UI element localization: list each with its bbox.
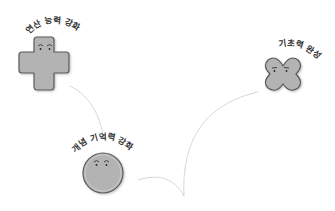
label-concept: 개념 기억력 강화 [70,131,135,154]
node-concept-circle [83,153,123,193]
label-basic: 기초력 완성 [278,38,323,61]
connector-concept-to-basic [138,92,258,196]
node-calc-cross [19,37,69,90]
node-basic-clover [265,58,300,90]
diagram-canvas: 연산 능력 강화 개념 기억력 강화 기초력 완성 [0,0,335,211]
learning-path-diagram: 연산 능력 강화 개념 기억력 강화 기초력 완성 [0,0,335,211]
label-calc: 연산 능력 강화 [24,15,82,36]
